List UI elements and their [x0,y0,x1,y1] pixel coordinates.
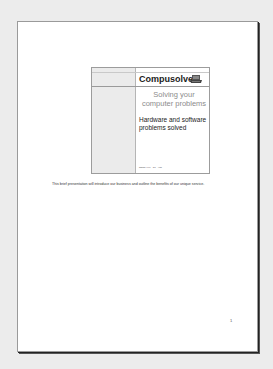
slide-footer: Name Xxx · 10 · #00 [139,166,162,169]
speaker-notes: This brief presentation will introduce o… [52,182,232,187]
slide-top-rule [92,72,209,73]
computer-icon [189,74,203,84]
slide-title: Compusolve [139,74,193,84]
slide-header-rule [92,86,209,87]
slide-sidebar-panel [92,68,136,173]
slide-subtitle: Solving your computer problems [138,91,210,108]
slide-body-text: Hardware and software problems solved [139,116,210,131]
page-number: 1 [230,318,232,323]
document-page: Compusolve Solving your computer problem… [17,21,258,352]
slide-thumbnail: Compusolve Solving your computer problem… [91,67,210,174]
